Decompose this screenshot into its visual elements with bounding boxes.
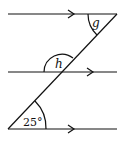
angle-h-label: h (55, 57, 63, 71)
parallel-lines-diagram: g h 25° (0, 0, 123, 153)
angle-g-label: g (92, 16, 100, 30)
angle-25-label: 25° (23, 116, 43, 129)
